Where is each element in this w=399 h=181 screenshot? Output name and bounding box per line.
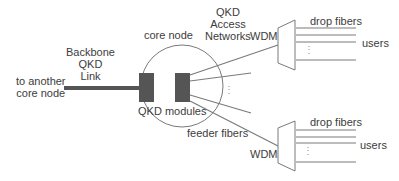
- qkd-modules-label: QKD modules: [138, 105, 206, 117]
- ellipsis-drop-top: ⋮: [304, 44, 314, 56]
- core-node-label: core node: [144, 29, 193, 41]
- drop-fibers-bottom-label: drop fibers: [310, 116, 362, 128]
- ellipsis-feeder: ⋮: [224, 84, 234, 96]
- ellipsis-drop-bottom: ⋮: [303, 145, 313, 157]
- to-another-core-label: to anothercore node: [16, 75, 66, 99]
- qkd-module-right: [175, 73, 190, 102]
- feeder-fibers-label: feeder fibers: [187, 127, 248, 139]
- drop-fibers-top-label: drop fibers: [310, 15, 362, 27]
- qkd-module-left: [139, 73, 154, 102]
- wdm-bottom-label: WDM: [250, 148, 278, 160]
- wdm-top-label: WDM: [250, 30, 278, 42]
- users-bottom-label: users: [360, 139, 387, 151]
- wdm-top: [278, 20, 295, 70]
- backbone-label: BackboneQKDLink: [66, 46, 115, 82]
- wdm-bottom: [278, 121, 295, 171]
- users-top-label: users: [362, 37, 389, 49]
- access-networks-label: QKDAccessNetworks: [205, 6, 251, 42]
